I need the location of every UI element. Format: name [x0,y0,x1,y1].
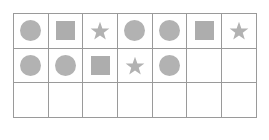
grid-cell-r2-c6 [187,49,222,84]
star-icon [228,20,250,42]
grid-cell-r2-c5 [153,49,188,84]
grid-cell-r3-c5 [153,83,188,118]
square-icon [91,56,110,75]
grid-cell-r2-c3 [83,49,118,84]
grid-cell-r2-c2 [49,49,84,84]
grid-cell-r3-c2 [49,83,84,118]
grid-cell-r1-c7 [222,14,257,49]
grid-cell-r2-c4 [118,49,153,84]
grid-cell-r1-c6 [187,14,222,49]
grid-cell-r1-c1 [14,14,49,49]
square-icon [56,21,75,40]
grid-cell-r3-c1 [14,83,49,118]
grid-cell-r1-c2 [49,14,84,49]
grid-cell-r2-c1 [14,49,49,84]
grid-cell-r3-c6 [187,83,222,118]
circle-icon [55,55,76,76]
grid-cell-r3-c7 [222,83,257,118]
circle-icon [20,55,41,76]
grid-cell-r3-c4 [118,83,153,118]
grid-cell-r1-c5 [153,14,188,49]
circle-icon [124,20,145,41]
star-icon [124,55,146,77]
circle-icon [159,55,180,76]
grid-cell-r1-c3 [83,14,118,49]
grid-cell-r1-c4 [118,14,153,49]
shape-grid [13,13,257,118]
grid-cell-r2-c7 [222,49,257,84]
grid-cell-r3-c3 [83,83,118,118]
circle-icon [159,20,180,41]
circle-icon [20,20,41,41]
square-icon [195,21,214,40]
star-icon [89,20,111,42]
